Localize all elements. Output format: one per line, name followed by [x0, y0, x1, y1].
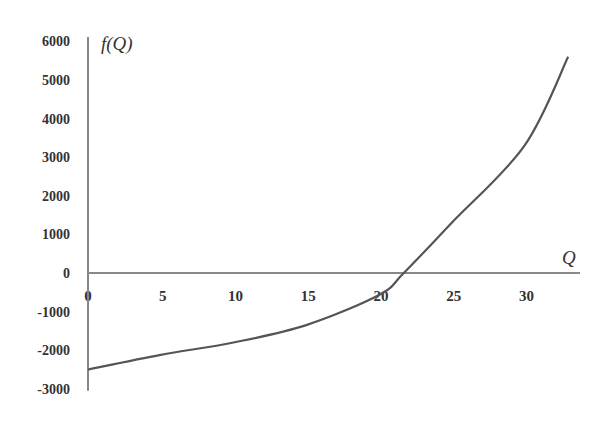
y-tick-label: -2000: [37, 343, 70, 358]
y-tick-label: 6000: [42, 34, 70, 49]
y-tick-label: 4000: [42, 112, 70, 127]
function-curve: [88, 57, 568, 370]
x-tick-label: 10: [228, 288, 243, 304]
y-tick-label: 3000: [42, 150, 70, 165]
x-tick-label: 5: [159, 288, 167, 304]
x-tick-label: 25: [446, 288, 461, 304]
x-tick-labels: 051015202530: [84, 288, 534, 304]
y-tick-label: 1000: [42, 227, 70, 242]
chart: -3000-2000-10000100020003000400050006000…: [0, 0, 605, 428]
x-axis-label: Q: [562, 247, 576, 268]
x-tick-label: 15: [301, 288, 316, 304]
y-tick-label: 0: [63, 266, 70, 281]
y-tick-label: 5000: [42, 73, 70, 88]
y-tick-label: -3000: [37, 382, 70, 397]
y-tick-labels: -3000-2000-10000100020003000400050006000: [37, 34, 70, 396]
x-tick-label: 30: [519, 288, 534, 304]
y-tick-label: 2000: [42, 189, 70, 204]
y-tick-label: -1000: [37, 305, 70, 320]
y-axis-label: f(Q): [101, 33, 133, 55]
